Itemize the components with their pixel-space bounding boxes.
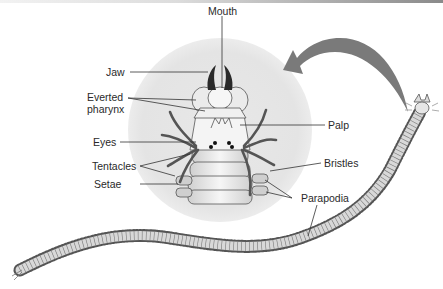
label-jaw: Jaw bbox=[106, 66, 125, 78]
label-bristles: Bristles bbox=[324, 157, 358, 169]
label-everted-pharynx-1: Everted bbox=[87, 91, 123, 103]
label-mouth: Mouth bbox=[208, 5, 237, 17]
label-everted-pharynx-2: pharynx bbox=[87, 103, 124, 115]
worm-diagram bbox=[0, 0, 443, 289]
label-setae: Setae bbox=[94, 178, 121, 190]
label-palp: Palp bbox=[328, 119, 349, 131]
label-tentacles: Tentacles bbox=[92, 160, 136, 172]
label-parapodia: Parapodia bbox=[301, 192, 349, 204]
label-eyes: Eyes bbox=[93, 136, 116, 148]
